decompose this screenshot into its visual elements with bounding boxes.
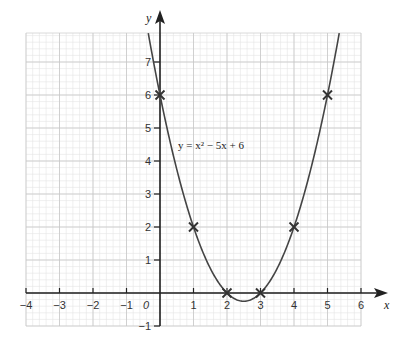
svg-text:4: 4 <box>145 155 151 167</box>
svg-text:7: 7 <box>145 56 151 68</box>
parabola-curve <box>148 33 339 301</box>
svg-text:0: 0 <box>143 299 150 311</box>
x-axis-label: x <box>383 298 390 312</box>
svg-text:5: 5 <box>145 122 151 134</box>
svg-text:−1: −1 <box>138 320 151 332</box>
svg-text:−4: −4 <box>20 299 33 311</box>
svg-text:2: 2 <box>224 299 230 311</box>
major-grid <box>26 33 361 326</box>
svg-text:6: 6 <box>145 89 151 101</box>
y-axis-label: y <box>145 11 152 25</box>
svg-text:3: 3 <box>257 299 263 311</box>
svg-text:3: 3 <box>145 188 151 200</box>
svg-text:−2: −2 <box>87 299 100 311</box>
svg-text:4: 4 <box>291 299 297 311</box>
equation-label: y = x² − 5x + 6 <box>178 139 244 151</box>
quadratic-graph: −4−3−2−10123456−11234567 y = x² − 5x + 6… <box>0 0 412 343</box>
svg-text:2: 2 <box>145 221 151 233</box>
svg-text:5: 5 <box>324 299 330 311</box>
svg-text:1: 1 <box>190 299 196 311</box>
svg-text:6: 6 <box>358 299 364 311</box>
svg-text:1: 1 <box>145 254 151 266</box>
svg-text:−3: −3 <box>53 299 66 311</box>
svg-text:−1: −1 <box>120 299 133 311</box>
